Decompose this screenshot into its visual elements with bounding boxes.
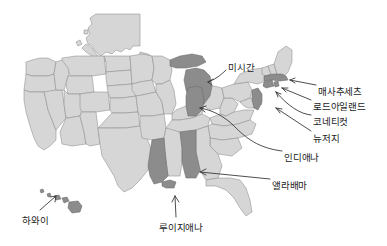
leader-hawaii <box>40 196 56 210</box>
state-oregon <box>24 74 56 92</box>
state-nebraska <box>107 84 136 98</box>
state-washington <box>26 58 56 76</box>
state-massachusetts <box>264 74 288 81</box>
state-maine <box>274 46 292 78</box>
state-new-jersey <box>252 88 262 110</box>
state-michigan-upper <box>170 54 206 68</box>
leader-louisiana <box>172 196 179 217</box>
state-colorado <box>80 92 110 112</box>
leader-new-jersey <box>276 108 311 131</box>
map-label-alabama: 앨라배마 <box>272 181 307 191</box>
map-label-new-jersey: 뉴저지 <box>313 134 339 144</box>
map-label-louisiana: 루이지애나 <box>159 223 203 233</box>
map-label-massachusetts: 매사추세츠 <box>318 87 362 97</box>
leader-massachusetts <box>290 78 316 85</box>
state-wyoming <box>66 76 94 94</box>
map-label-rhode-island: 로드아일랜드 <box>313 102 366 112</box>
state-south-dakota <box>106 70 132 86</box>
map-label-michigan: 미시간 <box>228 63 254 73</box>
state-hawaii <box>40 189 82 213</box>
state-utah <box>64 90 82 118</box>
map-label-indiana: 인디애나 <box>284 153 319 163</box>
state-minnesota <box>130 54 154 84</box>
map-label-hawaii: 하와이 <box>22 216 48 226</box>
state-arkansas <box>140 114 166 140</box>
state-wisconsin <box>152 56 172 84</box>
state-north-dakota <box>104 56 131 72</box>
state-oklahoma <box>98 112 140 128</box>
map-label-connecticut: 코네티컷 <box>313 117 348 127</box>
state-kansas <box>110 96 138 113</box>
us-state-map-figure: 미시간 매사추세츠 로드아일랜드 코네티컷 뉴저지 인디애나 앨라배마 하와이 … <box>0 0 387 246</box>
state-rhode-island <box>274 81 279 87</box>
state-florida <box>206 178 252 216</box>
state-louisiana-delta <box>162 180 176 188</box>
leader-rhode-island <box>282 88 311 100</box>
